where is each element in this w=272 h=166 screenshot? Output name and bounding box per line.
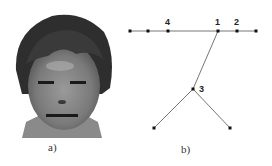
node bbox=[147, 30, 150, 33]
node-leaf-left bbox=[153, 127, 156, 130]
caption-b: b) bbox=[181, 143, 190, 155]
edge-3-right bbox=[193, 89, 230, 128]
node-2 bbox=[236, 30, 239, 33]
node-3 bbox=[192, 88, 195, 91]
graph-edges bbox=[130, 31, 256, 128]
node-1 bbox=[217, 30, 220, 33]
node bbox=[129, 30, 132, 33]
edge-3-left bbox=[154, 89, 193, 128]
label-2: 2 bbox=[234, 17, 239, 27]
graph-nodes bbox=[129, 30, 258, 130]
node bbox=[255, 30, 258, 33]
label-4: 4 bbox=[165, 17, 170, 27]
landmark-graph: 4 1 2 3 bbox=[0, 0, 272, 166]
label-3: 3 bbox=[199, 84, 204, 94]
node-leaf-right bbox=[229, 127, 232, 130]
edge-1-3 bbox=[193, 31, 218, 89]
node-4 bbox=[167, 30, 170, 33]
label-1: 1 bbox=[215, 17, 220, 27]
